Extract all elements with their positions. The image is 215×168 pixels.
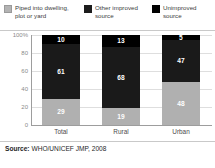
x-tick-total: Total <box>42 128 80 140</box>
source-note: Source: WHO/UNICEF JMP, 2008 <box>5 145 106 152</box>
bar-urban[interactable]: 5 47 48 <box>162 35 200 125</box>
legend-label-other-improved: Other improved source <box>95 4 150 19</box>
bar-rural-value-unimproved: 13 <box>117 37 125 44</box>
x-tick-rural: Rural <box>102 128 140 140</box>
bar-rural-value-piped: 19 <box>117 113 125 120</box>
legend-item-piped: Piped into dwelling, plot or yard <box>4 4 78 19</box>
x-tick-urban: Urban <box>162 128 200 140</box>
bar-total-value-unimproved: 10 <box>57 36 65 43</box>
x-axis: Total Rural Urban <box>31 128 211 140</box>
bar-rural[interactable]: 13 68 19 <box>102 35 140 125</box>
source-label: Source: <box>5 145 30 152</box>
y-tick-60: 60 <box>0 68 28 74</box>
chart-legend: Piped into dwelling, plot or yard Other … <box>0 0 215 31</box>
y-tick-80: 80 <box>0 50 28 56</box>
bar-urban-value-piped: 48 <box>177 100 185 107</box>
bar-rural-segment-piped: 19 <box>102 108 140 125</box>
legend-label-piped: Piped into dwelling, plot or yard <box>15 4 78 19</box>
y-tick-40: 40 <box>0 86 28 92</box>
y-tick-20: 20 <box>0 104 28 110</box>
y-axis: 100% 80 60 40 20 0 <box>0 35 28 125</box>
bar-total-value-other-improved: 61 <box>57 68 65 75</box>
bar-total-segment-piped: 29 <box>42 99 80 125</box>
legend-swatch-other-improved-icon <box>84 5 92 13</box>
bar-urban-segment-other-improved: 47 <box>162 40 200 82</box>
y-tick-100: 100% <box>0 32 28 38</box>
legend-swatch-unimproved-icon <box>152 5 160 13</box>
source-value: WHO/UNICEF JMP, 2008 <box>31 145 106 152</box>
y-tick-0: 0 <box>0 122 28 128</box>
bar-rural-value-other-improved: 68 <box>117 74 125 81</box>
bar-urban-value-other-improved: 47 <box>177 57 185 64</box>
bar-urban-segment-piped: 48 <box>162 82 200 125</box>
bar-total[interactable]: 10 61 29 <box>42 35 80 125</box>
source-bar: Source: WHO/UNICEF JMP, 2008 <box>0 141 215 168</box>
bar-total-segment-other-improved: 61 <box>42 44 80 99</box>
legend-item-unimproved: Unimproved source <box>152 4 212 19</box>
legend-item-other-improved: Other improved source <box>84 4 150 19</box>
bar-rural-segment-unimproved: 13 <box>102 35 140 47</box>
plot-area: 100% 80 60 40 20 0 10 61 <box>0 31 215 141</box>
legend-swatch-piped-icon <box>4 5 12 13</box>
bar-total-segment-unimproved: 10 <box>42 35 80 44</box>
bars-container: 10 61 29 13 68 19 <box>31 35 211 125</box>
legend-label-unimproved: Unimproved source <box>163 4 212 19</box>
bar-total-value-piped: 29 <box>57 108 65 115</box>
stacked-bar-chart-figure: Piped into dwelling, plot or yard Other … <box>0 0 215 168</box>
bar-rural-segment-other-improved: 68 <box>102 47 140 108</box>
